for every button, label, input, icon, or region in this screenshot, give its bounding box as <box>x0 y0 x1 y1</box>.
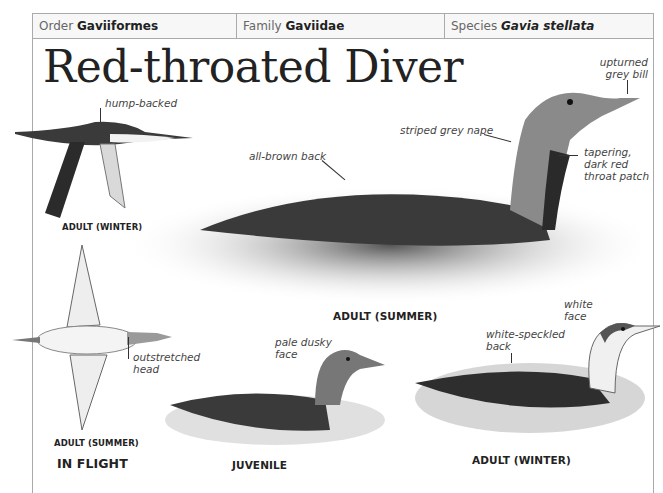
taxonomy-header: Order Gaviiformes Family Gaviidae Specie… <box>33 14 653 39</box>
family-value: Gaviidae <box>285 19 344 33</box>
species-value: Gavia stellata <box>501 19 594 33</box>
juvenile-illustration <box>165 345 390 450</box>
annotation-all-brown-back: all-brown back <box>249 150 326 162</box>
outstretched-head-pointer <box>128 337 129 359</box>
hump-backed-pointer <box>100 108 101 122</box>
order-cell: Order Gaviiformes <box>33 14 237 38</box>
order-value: Gaviiformes <box>77 19 158 33</box>
annotation-white-speckled-back: white-speckledback <box>486 328 565 352</box>
species-cell: Species Gavia stellata <box>445 14 653 38</box>
annotation-striped-nape: striped grey nape <box>400 124 493 136</box>
annotation-white-face: whiteface <box>564 298 593 322</box>
throat-patch-pointer <box>558 155 578 156</box>
annotation-pale-dusky-face: pale duskyface <box>275 336 332 360</box>
annotation-throat-patch: tapering,dark redthroat patch <box>584 146 649 182</box>
upturned-bill-pointer <box>627 80 628 94</box>
caption-in-flight: IN FLIGHT <box>57 456 128 471</box>
caption-adult-winter: ADULT (WINTER) <box>472 454 571 466</box>
white-speckled-pointer <box>511 353 512 363</box>
family-cell: Family Gaviidae <box>237 14 445 38</box>
caption-adult-summer-flight: ADULT (SUMMER) <box>54 438 139 448</box>
adult-summer-illustration <box>120 80 640 310</box>
caption-juvenile: JUVENILE <box>232 459 287 471</box>
annotation-upturned-bill: upturnedgrey bill <box>588 56 648 80</box>
